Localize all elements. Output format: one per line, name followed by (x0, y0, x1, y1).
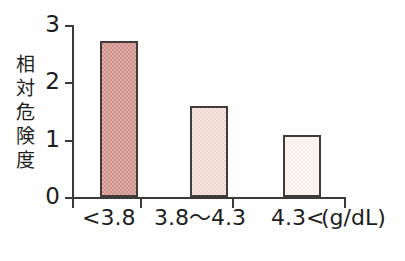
y-tick-label-2: 2 (34, 70, 60, 93)
x-tick-mark-0 (72, 199, 74, 208)
x-axis-unit-label: (g/dL) (321, 206, 386, 230)
bar-category-1 (190, 106, 228, 197)
x-tick-mark-1 (140, 199, 142, 208)
x-axis-line (72, 197, 346, 199)
y-axis-title-char-5: 度 (10, 148, 40, 172)
x-axis-label-2: 4.3< (271, 206, 324, 230)
y-tick-label-1: 1 (34, 128, 60, 151)
x-axis-label-0: <3.8 (82, 206, 135, 230)
y-axis-title-char-3: 危 (10, 100, 40, 124)
bar-category-0 (100, 41, 138, 197)
bar-category-2 (283, 135, 321, 197)
y-tick-mark-1 (65, 140, 74, 142)
y-axis-line (72, 25, 74, 202)
y-tick-label-3: 3 (34, 13, 60, 36)
x-axis-label-1: 3.8〜4.3 (154, 206, 246, 230)
y-tick-mark-2 (65, 82, 74, 84)
y-tick-label-0: 0 (34, 185, 60, 208)
plot-area: 3 2 1 0 (72, 20, 347, 202)
bar-chart-figure: 相 対 危 険 度 3 2 1 0 <3.8 3.8〜4.3 4.3< (g/d… (0, 0, 405, 261)
y-tick-mark-3 (65, 25, 74, 27)
